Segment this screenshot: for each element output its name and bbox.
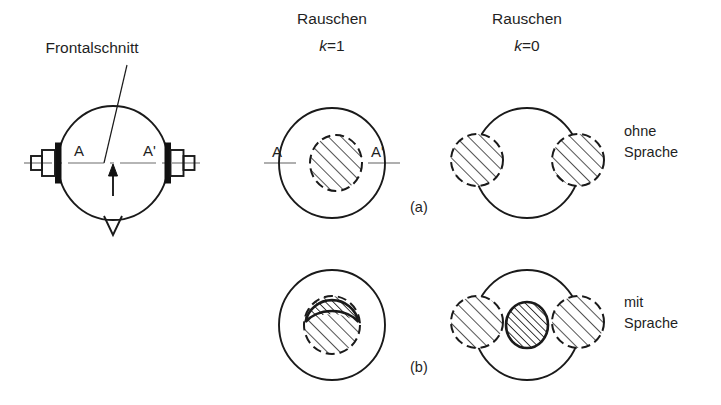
head-cross-section-group: Frontalschnitt A A' xyxy=(24,39,200,235)
column-headers: Rauschen k=1 Rauschen k=0 xyxy=(297,10,562,54)
column-1-condition: k=1 xyxy=(319,37,344,54)
panel-b-k1 xyxy=(279,270,385,380)
binaural-noise-speech-diagram: Frontalschnitt A A' Rauschen k=1 Rausche… xyxy=(0,0,721,405)
panel-b-k0 xyxy=(451,270,604,380)
head-label-a-prime: A' xyxy=(143,142,156,159)
row-a-tag: (a) xyxy=(410,199,428,215)
head-label-a: A xyxy=(74,142,84,159)
panel-b-k0-noise-blob-right xyxy=(552,296,604,348)
row-a-side-label-line2: Sprache xyxy=(624,144,678,160)
column-2-condition-value: =0 xyxy=(522,37,540,54)
frontalschnitt-label: Frontalschnitt xyxy=(45,39,139,56)
panel-b-k0-noise-blob-left xyxy=(451,296,503,348)
panel-a-k1: A A' xyxy=(264,108,400,218)
column-1-condition-value: =1 xyxy=(327,37,345,54)
panel-a-k1-label-a-prime: A' xyxy=(371,143,384,160)
panel-a-k1-noise-blob xyxy=(310,135,362,191)
panel-b-k0-speech-blob-center xyxy=(506,302,548,348)
column-1-title: Rauschen xyxy=(297,10,367,27)
frontalschnitt-leader-line xyxy=(104,65,127,163)
panel-a-k0 xyxy=(451,108,604,218)
panel-a-k1-label-a: A xyxy=(272,143,282,160)
forward-direction-arrow xyxy=(109,164,118,196)
column-2-condition: k=0 xyxy=(514,37,540,54)
figure-container: Frontalschnitt A A' Rauschen k=1 Rausche… xyxy=(0,0,721,405)
panel-a-k0-noise-blob-left xyxy=(451,134,503,186)
column-2-title: Rauschen xyxy=(492,10,562,27)
row-a-side-label-line1: ohne xyxy=(624,123,656,139)
panel-a-k0-noise-blob-right xyxy=(552,134,604,186)
row-b-side-label-line2: Sprache xyxy=(624,315,678,331)
row-b-side-label-line1: mit xyxy=(624,294,643,310)
row-b-tag: (b) xyxy=(410,359,428,375)
